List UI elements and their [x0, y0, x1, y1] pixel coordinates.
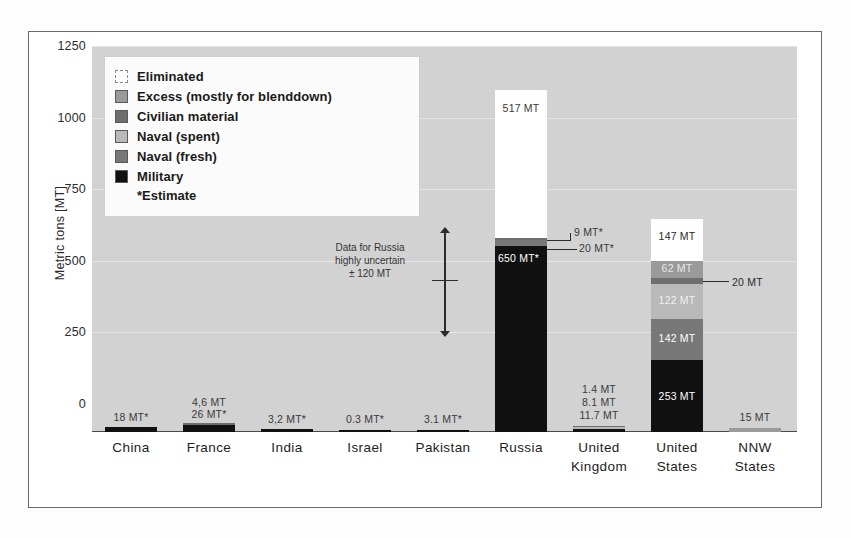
x-label-china: China [95, 438, 167, 457]
label-us-excess: 62 MT [652, 262, 702, 274]
y-tick-750: 750 [30, 182, 86, 196]
uncertainty-arrow [439, 227, 450, 337]
label-france-military: 26 MT* [186, 408, 232, 420]
x-label-pakistan: Pakistan [407, 438, 479, 457]
x-label-india: India [251, 438, 323, 457]
bar-pakistan-military[interactable] [417, 430, 469, 432]
label-russia-civilian: 9 MT* [574, 226, 603, 238]
label-uk-naval: 8.1 MT [574, 396, 624, 408]
x-label-france-line1: France [173, 438, 245, 457]
x-label-russia: Russia [485, 438, 557, 457]
plot-area: 18 MT* 4,6 MT 26 MT* 3,2 MT* 0.3 MT* 3.1… [92, 46, 797, 432]
bar-india[interactable] [261, 429, 313, 432]
legend-swatch-eliminated-icon [115, 70, 128, 83]
legend-item-military[interactable]: Military [115, 166, 409, 186]
x-label-nnw-line1: NNW [719, 438, 791, 457]
bar-uk-military[interactable] [573, 429, 625, 432]
x-label-pakistan-line1: Pakistan [407, 438, 479, 457]
label-us-military: 253 MT [652, 390, 702, 402]
y-tick-1250: 1250 [30, 39, 86, 53]
x-axis-labels: China France India Israel Pakistan Russi… [92, 438, 797, 502]
bar-russia-naval-fresh[interactable] [495, 240, 547, 246]
legend-swatch-civilian-icon [115, 110, 128, 123]
label-india-military: 3,2 MT* [262, 413, 312, 425]
arrow-shaft [444, 232, 446, 332]
label-russia-naval: 20 MT* [579, 242, 614, 254]
bar-india-military[interactable] [261, 429, 313, 432]
chart-legend: Eliminated Excess (mostly for blenddown)… [104, 56, 420, 217]
legend-item-civilian[interactable]: Civilian material [115, 106, 409, 126]
y-tick-1000: 1000 [30, 111, 86, 125]
legend-label-naval-fresh: Naval (fresh) [137, 149, 217, 164]
bar-china-military[interactable] [105, 427, 157, 432]
bar-france-military[interactable] [183, 425, 235, 432]
legend-item-naval-spent[interactable]: Naval (spent) [115, 126, 409, 146]
leader-russia-naval [547, 249, 577, 250]
bar-pakistan[interactable] [417, 430, 469, 432]
label-france-civilian: 4,6 MT [186, 396, 232, 408]
x-label-uk-line2: Kingdom [563, 457, 635, 476]
label-china-military: 18 MT* [108, 411, 154, 423]
y-tick-250: 250 [30, 325, 86, 339]
y-tick-500: 500 [30, 254, 86, 268]
x-label-uk-line1: United [563, 438, 635, 457]
uncertainty-line-3: ± 120 MT [308, 267, 432, 280]
gridline-1250 [92, 46, 797, 47]
bar-uk[interactable] [573, 426, 625, 432]
x-label-russia-line1: Russia [485, 438, 557, 457]
legend-label-military: Military [137, 169, 183, 184]
label-nnw-excess: 15 MT [730, 411, 780, 423]
leader-russia-civilian [547, 240, 571, 241]
bar-russia-civilian[interactable] [495, 238, 547, 241]
legend-item-naval-fresh[interactable]: Naval (fresh) [115, 146, 409, 166]
bar-russia-military[interactable] [495, 246, 547, 432]
x-label-israel-line1: Israel [329, 438, 401, 457]
x-label-france: France [173, 438, 245, 457]
x-label-nnw: NNW States [719, 438, 791, 476]
legend-swatch-military-icon [115, 170, 128, 183]
legend-item-excess[interactable]: Excess (mostly for blenddown) [115, 86, 409, 106]
label-us-civilian: 20 MT [732, 276, 763, 288]
bar-israel[interactable] [339, 430, 391, 432]
x-label-us-line1: United [641, 438, 713, 457]
label-us-eliminated: 147 MT [652, 230, 702, 242]
arrow-head-down [440, 331, 450, 337]
x-label-us: United States [641, 438, 713, 476]
y-tick-0: 0 [30, 397, 86, 411]
bar-france[interactable] [183, 423, 235, 432]
label-uk-civilian: 1.4 MT [574, 383, 624, 395]
bar-nnw-excess[interactable] [729, 428, 781, 432]
label-pakistan-military: 3.1 MT* [418, 413, 468, 425]
bar-france-civilian[interactable] [183, 423, 235, 424]
label-israel-military: 0.3 MT* [340, 413, 390, 425]
legend-swatch-naval-fresh-icon [115, 150, 128, 163]
legend-item-eliminated[interactable]: Eliminated [115, 66, 409, 86]
x-label-uk: United Kingdom [563, 438, 635, 476]
x-label-china-line1: China [95, 438, 167, 457]
uncertainty-line-1: Data for Russia [308, 241, 432, 254]
leader-us-civilian [703, 281, 729, 282]
figure-canvas: Metric tons [MT] 1250 1000 750 500 250 0… [0, 0, 851, 538]
x-label-india-line1: India [251, 438, 323, 457]
legend-label-naval-spent: Naval (spent) [137, 129, 220, 144]
bar-uk-naval[interactable] [573, 426, 625, 428]
leader-russia-civilian-riser [570, 233, 571, 242]
label-us-naval-spent: 122 MT [652, 294, 702, 306]
uncertainty-line-2: highly uncertain [308, 254, 432, 267]
russia-uncertainty-note: Data for Russia highly uncertain ± 120 M… [308, 241, 432, 280]
y-tick-labels: 1250 1000 750 500 250 0 [28, 46, 86, 432]
bar-china[interactable] [105, 427, 157, 432]
legend-label-excess: Excess (mostly for blenddown) [137, 89, 332, 104]
bar-us-civilian[interactable] [651, 278, 703, 284]
x-label-nnw-line2: States [719, 457, 791, 476]
x-label-us-line2: States [641, 457, 713, 476]
legend-label-eliminated: Eliminated [137, 69, 204, 84]
bar-nnw[interactable] [729, 428, 781, 432]
x-label-israel: Israel [329, 438, 401, 457]
label-russia-military: 650 MT* [498, 252, 546, 264]
legend-swatch-naval-spent-icon [115, 130, 128, 143]
legend-label-civilian: Civilian material [137, 109, 238, 124]
label-us-naval-fresh: 142 MT [652, 332, 702, 344]
bar-israel-military[interactable] [339, 430, 391, 432]
label-russia-eliminated: 517 MT [496, 102, 546, 114]
